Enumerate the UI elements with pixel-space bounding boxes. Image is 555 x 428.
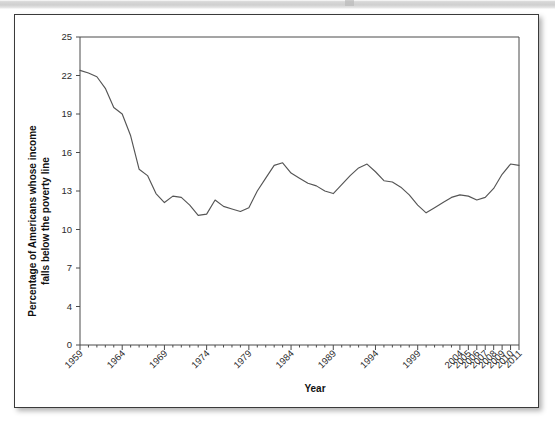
x-axis-tick-label: 1989 [315,348,338,371]
x-axis-tick-label: 1994 [358,348,381,371]
page-root: 047101316192225 195919641969197419791984… [0,0,555,428]
chart-plot-area: 047101316192225 195919641969197419791984… [15,15,540,409]
x-axis-tick-label: 1964 [104,348,127,371]
poverty-rate-series-line [80,70,519,215]
y-axis-tick-label: 22 [61,70,72,81]
y-axis-tick-label: 25 [61,31,72,42]
y-axis-title-line-1: Percentage of Americans whose income [27,125,38,317]
x-axis-tick-label: 1984 [273,348,296,371]
x-axis-tick-label: 1969 [147,348,170,371]
x-axis-tick-label: 1979 [231,348,254,371]
y-axis-ticks [76,37,80,345]
x-axis-tick-label: 1999 [400,348,423,371]
y-axis-title-line-2: falls below the poverty line [40,157,51,285]
page-top-band-notch [345,0,354,6]
y-axis-tick-label: 19 [61,108,72,119]
x-axis-tick-labels: 1959196419691974197919841989199419992004… [62,348,524,371]
y-axis-tick-label: 13 [61,185,72,196]
y-axis-tick-label: 4 [67,301,72,312]
y-axis-tick-label: 10 [61,224,72,235]
y-axis-tick-label: 16 [61,147,72,158]
x-axis-tick-label: 1974 [189,348,212,371]
y-axis-tick-label: 7 [67,262,72,273]
x-axis-tick-label: 1959 [62,348,85,371]
x-axis-title: Year [304,383,325,394]
y-axis-tick-label: 0 [67,339,72,350]
y-axis-tick-labels: 047101316192225 [61,31,72,350]
page-top-gray-band [0,0,555,9]
poverty-rate-line-chart: 047101316192225 195919641969197419791984… [15,15,540,409]
figure-card: 047101316192225 195919641969197419791984… [14,14,539,408]
